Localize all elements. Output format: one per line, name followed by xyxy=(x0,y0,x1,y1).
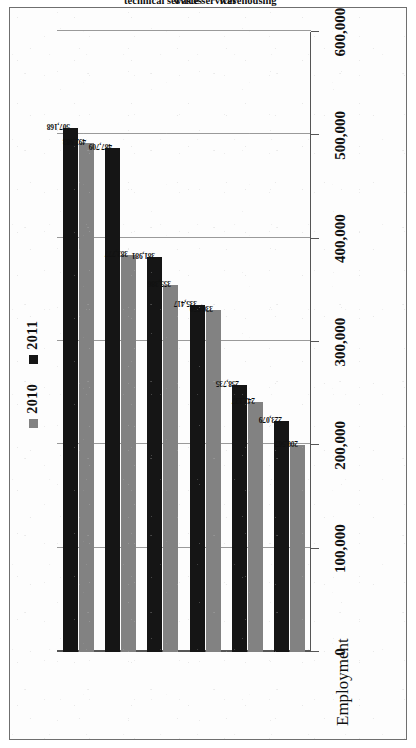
bar-2010[interactable]: 242,137 xyxy=(248,401,263,651)
square-marker-icon xyxy=(29,354,38,363)
bar-2011[interactable]: 223,079 xyxy=(274,421,289,652)
value-axis-tick-label: 0 xyxy=(332,648,349,656)
value-axis-tick-label: 100,000 xyxy=(332,524,349,573)
legend-label-2011: 2011 xyxy=(25,320,41,349)
bar-value-label: 507,168 xyxy=(47,121,70,130)
tick-mark-300000 xyxy=(311,341,319,342)
bar-group: 507,168492,983 xyxy=(57,18,99,730)
bar-2011[interactable]: 335,417 xyxy=(190,305,205,652)
bar-2011[interactable]: 381,981 xyxy=(147,257,162,652)
value-axis-tick-label: 200,000 xyxy=(332,420,349,469)
bar-group: 381,981355,386 xyxy=(142,18,184,730)
bar-2010[interactable]: 383,777 xyxy=(121,255,136,652)
tick-mark-100000 xyxy=(311,547,319,548)
legend-item-2010[interactable]: 2010 xyxy=(25,383,41,427)
legend-label-2010: 2010 xyxy=(25,383,41,413)
tick-mark-200000 xyxy=(311,444,319,445)
bar-2011[interactable]: 487,709 xyxy=(105,148,120,652)
category-label: Transportation andwarehousing xyxy=(208,0,288,9)
bar-value-label: 223,079 xyxy=(259,415,282,424)
bar-value-label: 330,650 xyxy=(190,303,213,312)
bar-group: 223,079200,567 xyxy=(269,18,311,730)
bar-group: 258,735242,137 xyxy=(226,18,268,730)
value-axis-tick-label: 600,000 xyxy=(332,7,349,56)
bar-2010[interactable]: 200,567 xyxy=(290,444,305,651)
tick-mark-400000 xyxy=(311,237,319,238)
bar-2010[interactable]: 492,983 xyxy=(79,142,94,651)
bar-2010[interactable]: 355,386 xyxy=(163,284,178,651)
bar-value-label: 258,735 xyxy=(217,378,240,387)
bar-group: 487,709383,777 xyxy=(99,18,141,730)
bar-chart: 2010 2011 Employment 0100,000200,000300,… xyxy=(19,18,397,730)
tick-mark-500000 xyxy=(311,134,319,135)
value-axis-tick-label: 400,000 xyxy=(332,214,349,263)
square-marker-icon xyxy=(29,418,38,427)
bar-2010[interactable]: 330,650 xyxy=(206,310,221,652)
bar-2011[interactable]: 507,168 xyxy=(63,127,78,651)
bar-value-label: 383,777 xyxy=(106,248,129,257)
bar-value-label: 355,386 xyxy=(148,278,171,287)
tick-mark-600000 xyxy=(311,31,319,32)
legend-item-2011[interactable]: 2011 xyxy=(25,320,41,363)
value-axis-tick-label: 300,000 xyxy=(332,317,349,366)
bar-value-label: 242,137 xyxy=(233,395,256,404)
bar-value-label: 381,981 xyxy=(132,250,155,259)
bar-value-label: 487,709 xyxy=(90,141,113,150)
bar-value-label: 200,567 xyxy=(275,438,298,447)
value-axis-tick-label: 500,000 xyxy=(332,110,349,159)
rotated-chart-stage: 2010 2011 Employment 0100,000200,000300,… xyxy=(19,18,397,730)
bar-2011[interactable]: 258,735 xyxy=(232,384,247,651)
chart-legend: 2010 2011 xyxy=(25,18,41,730)
bar-group: 335,417330,650 xyxy=(184,18,226,730)
scanned-page-frame: 2010 2011 Employment 0100,000200,000300,… xyxy=(9,7,407,740)
bar-value-label: 492,983 xyxy=(63,136,86,145)
tick-mark-0 xyxy=(311,651,319,652)
